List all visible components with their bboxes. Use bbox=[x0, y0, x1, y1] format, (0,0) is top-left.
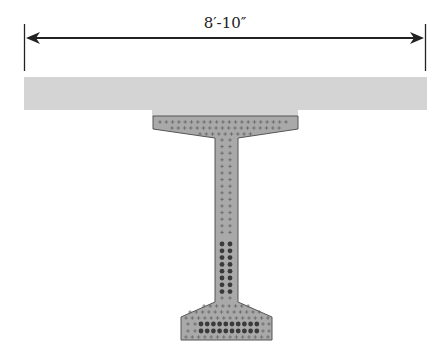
strand-dot bbox=[236, 329, 241, 334]
strand-dot bbox=[254, 322, 259, 327]
strand-dot bbox=[220, 255, 225, 260]
strand-dot bbox=[205, 322, 210, 327]
strand-dot bbox=[248, 329, 253, 334]
strand-dot bbox=[217, 322, 222, 327]
strand-dot bbox=[230, 322, 235, 327]
strand-dot bbox=[228, 242, 233, 247]
strand-dot bbox=[248, 322, 253, 327]
dimension-line: 8′-10″ bbox=[25, 14, 426, 71]
strand-dot bbox=[220, 282, 225, 287]
strand-dot bbox=[223, 322, 228, 327]
girder-section-diagram: 8′-10″ bbox=[0, 0, 447, 358]
strand-dot bbox=[223, 329, 228, 334]
strand-dot bbox=[220, 248, 225, 253]
strand-dot bbox=[199, 329, 204, 334]
strand-dot bbox=[242, 329, 247, 334]
strand-dot bbox=[205, 329, 210, 334]
strand-dot bbox=[220, 289, 225, 294]
dimension-label: 8′-10″ bbox=[204, 14, 247, 32]
strand-dot bbox=[236, 322, 241, 327]
strand-dot bbox=[220, 242, 225, 247]
strand-dot bbox=[228, 248, 233, 253]
strand-dot bbox=[211, 322, 216, 327]
i-girder bbox=[153, 116, 298, 340]
strand-dot bbox=[228, 255, 233, 260]
strand-dot bbox=[228, 269, 233, 274]
strand-dot bbox=[230, 329, 235, 334]
strand-dot bbox=[228, 289, 233, 294]
strand-dot bbox=[220, 269, 225, 274]
strand-dot bbox=[220, 262, 225, 267]
strand-dot bbox=[254, 329, 259, 334]
strand-dot bbox=[242, 322, 247, 327]
strand-dot bbox=[220, 276, 225, 281]
deck-slab bbox=[24, 77, 427, 110]
strand-dot bbox=[217, 329, 222, 334]
strand-dot bbox=[228, 276, 233, 281]
strand-dot bbox=[211, 329, 216, 334]
strand-dot bbox=[199, 322, 204, 327]
strand-dot bbox=[228, 262, 233, 267]
strand-dot bbox=[228, 282, 233, 287]
